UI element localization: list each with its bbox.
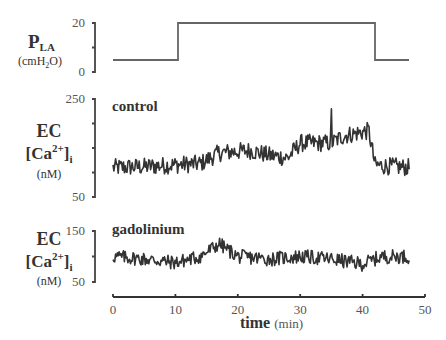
x-tick-50: 50	[419, 302, 432, 317]
control-ylabel-ec: EC	[36, 121, 61, 141]
control-tick-250: 250	[66, 91, 86, 106]
pla-y-axis	[92, 23, 95, 72]
gad-tick-150: 150	[66, 223, 86, 238]
pla-tick-20: 20	[72, 15, 85, 30]
control-panel: EC [Ca2+]i (nM) 250 50 control	[26, 91, 410, 204]
pla-label: PLA	[28, 31, 55, 53]
pla-unit: (cmH2O)	[18, 54, 62, 70]
control-y-axis	[92, 99, 95, 197]
x-tick-0: 0	[110, 302, 117, 317]
pressure-panel: PLA (cmH2O) 20 0	[18, 15, 409, 79]
figure: PLA (cmH2O) 20 0 EC [Ca2+]i (nM) 250 50 …	[0, 0, 446, 340]
pla-tick-0: 0	[79, 64, 86, 79]
gad-ylabel-ca: [Ca2+]i	[26, 250, 73, 273]
gadolinium-panel: EC [Ca2+]i (nM) 150 50 gadolinium	[26, 221, 410, 289]
gad-y-axis	[92, 231, 95, 282]
control-title: control	[112, 98, 158, 114]
pla-trace	[113, 23, 409, 60]
control-tick-50: 50	[72, 189, 85, 204]
x-axis-label: time(min)	[240, 314, 303, 331]
x-axis: 0 10 20 30 40 50 time(min)	[110, 294, 432, 331]
gad-trace	[113, 238, 409, 271]
x-tick-10: 10	[169, 302, 182, 317]
gad-tick-50: 50	[72, 274, 85, 289]
x-tick-30: 30	[294, 302, 307, 317]
x-axis-line	[113, 294, 425, 297]
gad-ylabel-unit: (nM)	[37, 274, 62, 288]
control-trace	[113, 109, 409, 176]
control-ylabel-unit: (nM)	[37, 167, 62, 181]
gad-ylabel-ec: EC	[36, 229, 61, 249]
control-ylabel-ca: [Ca2+]i	[26, 142, 73, 165]
x-tick-40: 40	[356, 302, 369, 317]
gad-title: gadolinium	[112, 221, 185, 237]
